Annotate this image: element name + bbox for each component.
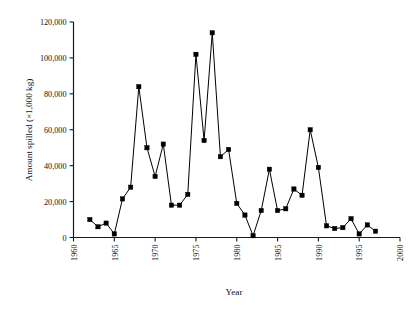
data-point-marker	[104, 221, 108, 225]
y-tick-label: 80,000	[44, 90, 67, 99]
data-point-marker	[153, 174, 157, 178]
data-point-marker	[169, 203, 173, 207]
data-point-marker	[373, 229, 377, 233]
data-point-marker	[88, 217, 92, 221]
data-point-marker	[218, 154, 222, 158]
data-point-marker	[275, 208, 279, 212]
data-point-marker	[112, 232, 116, 236]
data-point-marker	[251, 234, 255, 238]
x-tick-label: 1960	[70, 245, 79, 261]
data-point-marker	[349, 216, 353, 220]
data-point-marker	[316, 165, 320, 169]
x-tick-label: 1980	[233, 245, 242, 261]
y-tick-label: 60,000	[44, 126, 67, 135]
data-point-marker	[120, 197, 124, 201]
y-axis-title: Amount spilled (×1,000 kg)	[24, 79, 34, 182]
chart-container: 020,00040,00060,00080,000100,000120,000 …	[0, 0, 416, 311]
data-point-marker	[357, 232, 361, 236]
x-tick-label: 1965	[111, 245, 120, 261]
y-tick-label: 40,000	[44, 162, 67, 171]
data-point-marker	[267, 167, 271, 171]
data-point-marker	[284, 207, 288, 211]
x-tick-label: 1975	[192, 245, 201, 261]
x-axis-title: Year	[226, 287, 243, 297]
data-point-marker	[186, 192, 190, 196]
data-point-marker	[145, 146, 149, 150]
data-point-marker	[324, 224, 328, 228]
data-point-marker	[259, 208, 263, 212]
spill-amount-line-chart: 020,00040,00060,00080,000100,000120,000 …	[0, 0, 416, 311]
data-point-marker	[292, 187, 296, 191]
y-tick-label: 20,000	[44, 198, 67, 207]
data-point-marker	[365, 223, 369, 227]
data-point-marker	[128, 185, 132, 189]
data-point-marker	[177, 203, 181, 207]
data-point-marker	[96, 225, 100, 229]
data-point-marker	[161, 142, 165, 146]
chart-background	[0, 0, 416, 311]
y-tick-label: 0	[62, 234, 66, 243]
data-point-marker	[243, 213, 247, 217]
data-point-marker	[300, 193, 304, 197]
y-tick-label: 100,000	[40, 54, 67, 63]
x-tick-label: 1990	[315, 245, 324, 261]
data-point-marker	[137, 84, 141, 88]
data-point-marker	[202, 138, 206, 142]
data-point-marker	[226, 147, 230, 151]
y-tick-label: 120,000	[40, 18, 67, 27]
data-point-marker	[308, 128, 312, 132]
x-tick-label: 1995	[355, 245, 364, 261]
x-tick-label: 1970	[151, 245, 160, 261]
x-tick-label: 1985	[274, 245, 283, 261]
x-tick-label: 2000	[396, 245, 405, 261]
data-point-marker	[194, 52, 198, 56]
data-point-marker	[235, 201, 239, 205]
data-point-marker	[341, 225, 345, 229]
data-point-marker	[333, 226, 337, 230]
data-point-marker	[210, 31, 214, 35]
